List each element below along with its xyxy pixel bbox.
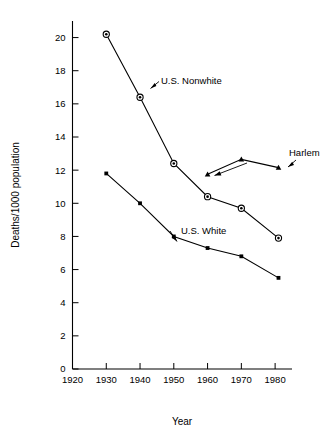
data-point-u-s-white xyxy=(206,246,210,250)
y-tick-label: 16 xyxy=(55,98,66,109)
y-axis-ticks xyxy=(73,38,79,369)
y-tick-label: 4 xyxy=(60,297,65,308)
data-point-u-s-white xyxy=(138,201,142,205)
mortality-line-chart: 02468101214161820 1920193019401950196019… xyxy=(0,0,334,439)
y-tick-label: 10 xyxy=(55,198,66,209)
chart-container: 02468101214161820 1920193019401950196019… xyxy=(0,0,334,439)
series-line-u-s-nonwhite xyxy=(106,34,278,238)
series-label-harlem: Harlem xyxy=(289,147,320,158)
y-tick-label: 2 xyxy=(60,330,65,341)
leader-arrow-harlem-left xyxy=(215,171,222,175)
y-tick-label: 0 xyxy=(60,363,65,374)
y-tick-label: 20 xyxy=(55,32,66,43)
data-point-u-s-nonwhite-center xyxy=(139,96,142,99)
x-tick-label: 1970 xyxy=(231,374,252,385)
x-tick-label: 1930 xyxy=(96,374,117,385)
data-point-u-s-nonwhite-center xyxy=(240,207,243,210)
data-point-u-s-white xyxy=(277,276,281,280)
data-point-u-s-nonwhite-center xyxy=(277,237,280,240)
y-tick-label: 12 xyxy=(55,165,66,176)
x-tick-label: 1940 xyxy=(129,374,150,385)
data-point-u-s-nonwhite-center xyxy=(105,33,108,36)
series-label-us-white: U.S. White xyxy=(181,225,226,236)
x-tick-label: 1960 xyxy=(197,374,218,385)
x-axis-tick-labels: 1920193019401950196019701980 xyxy=(62,374,286,385)
series-lines-group xyxy=(106,34,278,278)
x-tick-label: 1980 xyxy=(265,374,286,385)
y-tick-label: 14 xyxy=(55,131,66,142)
data-point-harlem xyxy=(239,157,245,162)
y-axis-tick-labels: 02468101214161820 xyxy=(55,32,66,374)
data-point-u-s-nonwhite-center xyxy=(173,162,176,165)
y-axis-title: Deaths/1000 population xyxy=(10,142,21,248)
y-tick-label: 18 xyxy=(55,65,66,76)
series-line-harlem xyxy=(208,159,279,174)
data-point-u-s-white xyxy=(239,254,243,258)
data-point-u-s-nonwhite-center xyxy=(206,195,209,198)
y-tick-label: 6 xyxy=(60,264,65,275)
y-tick-label: 8 xyxy=(60,231,65,242)
x-tick-label: 1920 xyxy=(62,374,83,385)
x-tick-label: 1950 xyxy=(163,374,184,385)
series-label-us-nonwhite: U.S. Nonwhite xyxy=(161,75,222,86)
data-point-u-s-white xyxy=(104,172,108,176)
x-axis-title: Year xyxy=(172,416,193,427)
x-axis-ticks xyxy=(73,363,276,369)
